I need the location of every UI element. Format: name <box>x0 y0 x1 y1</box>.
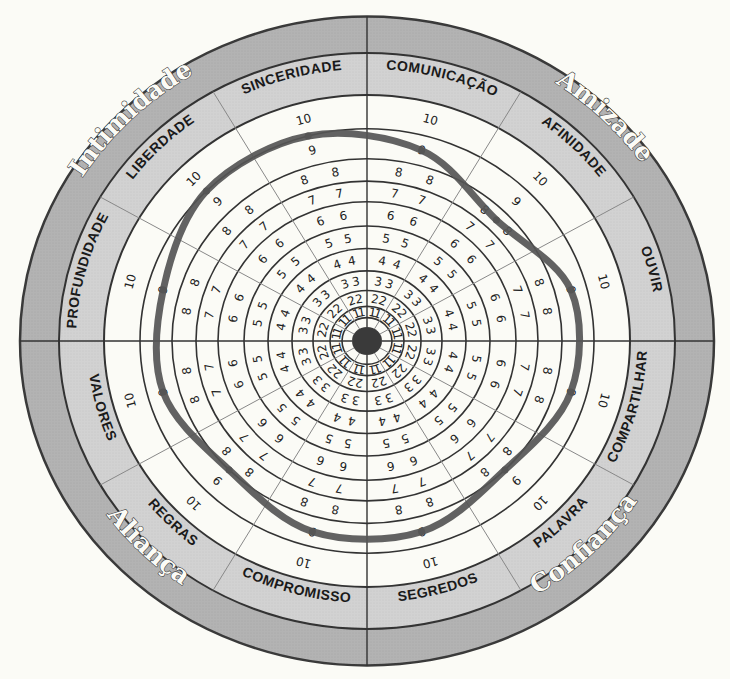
relationship-wheel: 1234567891012345678123456789101234567812… <box>0 0 730 679</box>
score-point-ouvir <box>567 286 574 293</box>
center <box>352 327 382 355</box>
score-point-liberdade <box>203 187 210 194</box>
center-dot <box>352 327 382 355</box>
score-point-compartilhar <box>567 389 574 396</box>
score-point-regras <box>226 466 233 473</box>
score-point-afinidade <box>493 217 500 224</box>
score-point-palavra <box>501 466 508 473</box>
score-point-segredos <box>418 528 425 535</box>
score-point-comunicação <box>418 147 425 154</box>
score-point-compromisso <box>309 528 316 535</box>
score-point-profundidade <box>160 286 167 293</box>
score-point-valores <box>160 389 167 396</box>
score-point-sinceridade <box>305 133 312 140</box>
